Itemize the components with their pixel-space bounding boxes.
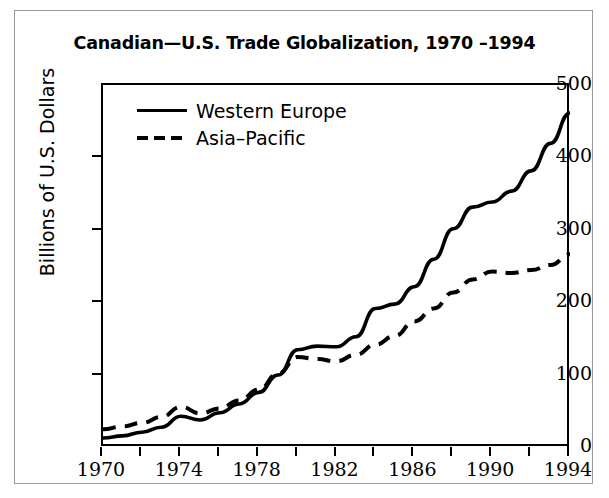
x-tick-mark xyxy=(100,447,102,456)
figure-frame: Canadian—U.S. Trade Globalization, 1970 … xyxy=(14,10,593,484)
series-line-western-europe xyxy=(103,113,570,438)
y-axis-label: Billions of U.S. Dollars xyxy=(36,22,58,322)
x-tick-mark xyxy=(139,447,141,456)
legend-swatch-solid-icon xyxy=(137,104,187,118)
x-tick-label: 1970 xyxy=(66,458,136,480)
x-tick-label: 1986 xyxy=(377,458,447,480)
y-tick-mark xyxy=(92,228,101,230)
series-line-asia-pacific xyxy=(103,254,570,429)
x-tick-mark xyxy=(217,447,219,456)
x-tick-mark xyxy=(295,447,297,456)
x-tick-mark xyxy=(178,447,180,456)
legend-item-western-europe: Western Europe xyxy=(137,97,347,124)
legend-item-asia-pacific: Asia–Pacific xyxy=(137,124,347,151)
x-tick-label: 1990 xyxy=(455,458,525,480)
x-tick-label: 1982 xyxy=(300,458,370,480)
x-tick-label: 1978 xyxy=(222,458,292,480)
legend-label-asia-pacific: Asia–Pacific xyxy=(196,127,306,149)
y-tick-mark xyxy=(92,373,101,375)
x-tick-mark xyxy=(567,447,569,456)
x-tick-mark xyxy=(528,447,530,456)
x-tick-label: 1974 xyxy=(144,458,214,480)
y-tick-mark xyxy=(92,155,101,157)
x-tick-mark xyxy=(372,447,374,456)
y-tick-mark xyxy=(92,300,101,302)
x-tick-mark xyxy=(450,447,452,456)
x-tick-mark xyxy=(334,447,336,456)
x-tick-mark xyxy=(411,447,413,456)
chart-title: Canadian—U.S. Trade Globalization, 1970 … xyxy=(15,33,594,53)
x-tick-mark xyxy=(489,447,491,456)
x-tick-mark xyxy=(256,447,258,456)
legend-label-western-europe: Western Europe xyxy=(196,100,347,122)
chart-legend: Western Europe Asia–Pacific xyxy=(137,97,347,151)
x-tick-label: 1994 xyxy=(533,458,603,480)
legend-swatch-dashed-icon xyxy=(137,131,187,145)
